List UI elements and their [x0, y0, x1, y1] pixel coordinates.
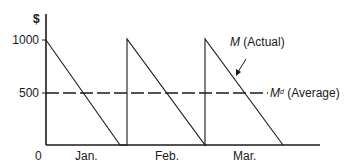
average-text: (Average) [284, 86, 340, 100]
x-label-jan: Jan. [75, 150, 98, 162]
average-superscript: d [280, 88, 284, 95]
y-axis-unit: $ [33, 13, 40, 25]
x-label-feb: Feb. [155, 150, 179, 162]
actual-text: (Actual) [240, 35, 285, 49]
actual-arrow-shaft [238, 59, 246, 72]
chart-plot [0, 0, 349, 166]
y-tick-label-500: 500 [0, 87, 39, 99]
y-tick-label-1000: 1000 [0, 34, 39, 46]
actual-label: M (Actual) [230, 36, 285, 48]
actual-arrow-head-icon [236, 69, 241, 76]
money-demand-chart: $ 1000 500 0 Jan. Feb. Mar. M (Actual) M… [0, 0, 349, 166]
average-label: Md (Average) [270, 87, 340, 99]
origin-label: 0 [35, 150, 42, 162]
x-label-mar: Mar. [233, 150, 256, 162]
actual-money-line [46, 39, 283, 145]
average-symbol: M [270, 86, 280, 100]
actual-symbol: M [230, 35, 240, 49]
